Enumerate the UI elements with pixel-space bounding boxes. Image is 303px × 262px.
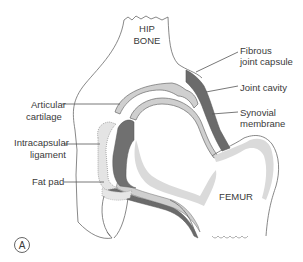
label-fibrous-capsule-line1: Fibrous	[240, 45, 272, 56]
hip-bone-outline	[73, 16, 202, 238]
label-fibrous-capsule-line2: joint capsule	[239, 56, 293, 67]
ligament-dark-band	[113, 120, 136, 188]
ischium-stump	[102, 196, 128, 238]
label-synovial-membrane-line1: Synovial	[240, 107, 276, 118]
label-intracapsular-ligament-line2: ligament	[30, 149, 66, 160]
panel-label: A	[19, 240, 26, 251]
label-femur: FEMUR	[219, 191, 253, 202]
label-articular-cartilage-line2: cartilage	[26, 111, 62, 122]
label-joint-cavity: Joint cavity	[240, 82, 287, 93]
label-intracapsular-ligament-line1: Intracapsular	[14, 137, 69, 148]
label-articular-cartilage-line1: Articular	[31, 99, 66, 110]
hip-joint-diagram: HIP BONE Fibrous joint capsule Joint cav…	[0, 0, 303, 262]
label-hip-bone-line2: BONE	[134, 35, 161, 46]
label-synovial-membrane-line2: membrane	[240, 118, 285, 129]
leader-fibrous-capsule	[196, 52, 238, 72]
femur-cut-line	[212, 236, 248, 238]
label-hip-bone-line1: HIP	[139, 23, 155, 34]
leader-synovial-membrane	[212, 112, 238, 114]
label-fat-pad: Fat pad	[32, 176, 64, 187]
leader-joint-cavity	[206, 86, 238, 92]
